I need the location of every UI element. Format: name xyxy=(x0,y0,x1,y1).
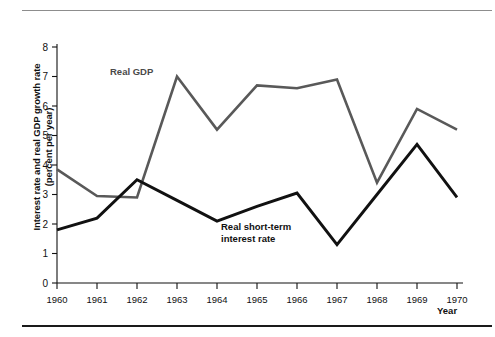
x-axis-tick-label: 1966 xyxy=(286,294,307,305)
x-axis-tick-label: 1962 xyxy=(126,294,147,305)
x-axis-title: Year xyxy=(437,305,457,316)
series-line-real-gdp xyxy=(57,77,457,198)
y-axis-tick-label: 0 xyxy=(42,278,48,289)
y-axis-tick-label: 8 xyxy=(42,42,48,53)
x-axis-tick-label: 1969 xyxy=(406,294,427,305)
y-axis-tick-label: 7 xyxy=(42,71,48,82)
x-axis-tick-label: 1967 xyxy=(326,294,347,305)
x-axis-tick-label: 1963 xyxy=(166,294,187,305)
y-axis-tick-label: 2 xyxy=(42,219,48,230)
y-axis-tick-label: 1 xyxy=(42,248,48,259)
y-axis-tick-label: 3 xyxy=(42,189,48,200)
plot-area: 012345678 196019611962196319641965196619… xyxy=(57,40,477,290)
bottom-divider-rule xyxy=(22,325,492,327)
x-axis-tick-label: 1961 xyxy=(86,294,107,305)
x-axis-tick-label: 1970 xyxy=(446,294,467,305)
top-divider-rule xyxy=(22,10,492,11)
y-axis-tick-label: 5 xyxy=(42,130,48,141)
figure-canvas: Interest rate and real GDP growth rate (… xyxy=(0,0,495,337)
x-axis-tick-label: 1968 xyxy=(366,294,387,305)
series-annotation-real-short-term-interest-rate: Real short-term interest rate xyxy=(221,221,291,244)
series-annotation-real-gdp: Real GDP xyxy=(110,66,153,77)
x-axis-tick-group: 1960196119621963196419651966196719681969… xyxy=(46,283,467,305)
x-axis-tick-label: 1965 xyxy=(246,294,267,305)
line-chart-svg: 012345678 196019611962196319641965196619… xyxy=(57,40,477,290)
y-axis-tick-label: 4 xyxy=(42,160,48,171)
x-axis-tick-label: 1964 xyxy=(206,294,227,305)
y-axis-title-line1: Interest rate and real GDP growth rate xyxy=(31,63,42,230)
x-axis-tick-label: 1960 xyxy=(46,294,67,305)
y-axis-tick-label: 6 xyxy=(42,101,48,112)
series-annotation-line2: interest rate xyxy=(221,233,291,245)
series-annotation-line1: Real short-term xyxy=(221,221,291,233)
